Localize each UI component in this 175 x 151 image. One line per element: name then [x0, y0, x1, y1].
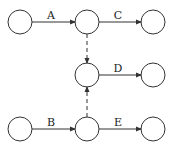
node-6 [8, 117, 32, 141]
node-7 [75, 117, 99, 141]
label-e: E [114, 116, 122, 129]
node-5 [141, 63, 165, 87]
label-b: B [47, 116, 55, 129]
node-4 [75, 63, 99, 87]
node-8 [141, 117, 165, 141]
node-1 [8, 10, 32, 34]
label-d: D [114, 62, 123, 75]
network-diagram: A C D B E [0, 0, 175, 151]
label-a: A [46, 9, 56, 22]
label-c: C [114, 9, 122, 22]
node-3 [141, 10, 165, 34]
node-2 [75, 10, 99, 34]
